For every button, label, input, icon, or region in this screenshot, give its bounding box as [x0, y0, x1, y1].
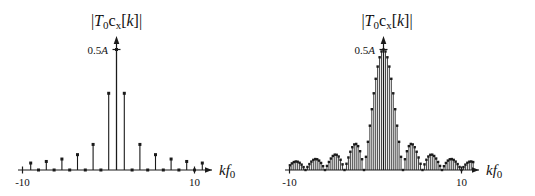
stem-marker [302, 166, 304, 168]
right-xtick-label-plus10: 10 [456, 176, 468, 188]
stem-marker [37, 169, 40, 172]
right-xtick-label-minus10: -10 [282, 176, 297, 188]
stem-marker [396, 124, 398, 126]
stem-marker [341, 163, 343, 165]
stem-marker [386, 56, 388, 58]
stem-marker [443, 165, 445, 167]
stem-marker [472, 161, 474, 163]
stem-marker [406, 150, 408, 152]
stem-marker [435, 157, 437, 159]
stem-marker [415, 151, 417, 153]
stem-marker [373, 92, 375, 94]
right-xaxis-label: kf0 [486, 162, 503, 180]
left-xtick-label-minus10: -10 [15, 176, 30, 188]
stem-marker [324, 169, 326, 171]
ytick-amplitude: A [100, 44, 108, 56]
stem-marker [351, 146, 353, 148]
stem-marker [363, 169, 365, 171]
stem-marker [394, 108, 396, 110]
stem-marker [146, 169, 149, 172]
stem-marker [76, 153, 79, 156]
stem-marker [138, 143, 141, 146]
stem-marker [347, 156, 349, 158]
x-axis-arrowhead [205, 167, 212, 173]
figure-panel-left: |T0cx[k]| 0.5A -10 10 kf0 [0, 0, 267, 196]
stem-marker [154, 153, 157, 156]
stem-marker [304, 169, 306, 171]
stem-marker [330, 157, 332, 159]
stem-marker [437, 161, 439, 163]
stem-marker [99, 169, 102, 172]
stem-marker [29, 162, 32, 165]
left-xtick-label-plus10: 10 [189, 176, 201, 188]
ytick-number: 0.5 [88, 44, 102, 56]
stem-marker [115, 48, 118, 51]
title-bar-right: | [409, 12, 412, 30]
stem-marker [376, 65, 378, 67]
stem-marker [162, 169, 165, 172]
title-c: c [379, 12, 386, 29]
title-bar-right: | [139, 12, 142, 30]
stem-marker [388, 65, 390, 67]
stem-marker [400, 156, 402, 158]
left-xaxis-label: kf0 [219, 162, 236, 180]
stem-marker [84, 169, 87, 172]
stem-marker [345, 163, 347, 165]
stem-marker [390, 78, 392, 80]
stem-marker [445, 162, 447, 164]
right-spectrum-plot: |T0cx[k]| 0.5A -10 10 kf0 [267, 0, 535, 196]
left-plot-title: |T0cx[k]| [91, 12, 142, 31]
stem-marker [423, 163, 425, 165]
stem-marker [343, 169, 345, 171]
stem-marker [185, 160, 188, 163]
stem-marker [306, 166, 308, 168]
left-spectrum-plot: |T0cx[k]| 0.5A -10 10 kf0 [0, 0, 267, 196]
stem-marker [359, 150, 361, 152]
stem-marker [460, 169, 462, 171]
stem-marker [193, 169, 196, 172]
stem-marker [454, 160, 456, 162]
stem-marker [371, 108, 373, 110]
stem-marker [384, 50, 386, 52]
title-c: c [109, 12, 116, 29]
stem-marker [177, 169, 180, 172]
stem-marker [441, 169, 443, 171]
stem-marker [107, 92, 110, 95]
stem-marker [419, 163, 421, 165]
stem-marker [45, 160, 48, 163]
stem-marker [421, 169, 423, 171]
stem-marker [412, 143, 414, 145]
stem-marker [201, 162, 204, 165]
stem-marker [68, 169, 71, 172]
xaxis-f-subscript: 0 [230, 168, 236, 180]
stem-marker [53, 169, 56, 172]
stem-marker [337, 155, 339, 157]
figure-panel-right: |T0cx[k]| 0.5A -10 10 kf0 [267, 0, 534, 196]
stem-marker [414, 146, 416, 148]
stem-marker [170, 158, 173, 161]
stem-marker [433, 155, 435, 157]
right-stem-group [289, 48, 475, 171]
y-axis-arrowhead [381, 36, 387, 44]
stem-marker [378, 56, 380, 58]
stem-marker [320, 162, 322, 164]
stem-marker [92, 143, 95, 146]
stem-marker [60, 158, 63, 161]
stem-marker [357, 145, 359, 147]
y-axis-arrowhead [114, 36, 120, 44]
stem-marker [404, 158, 406, 160]
stem-marker [328, 161, 330, 163]
left-ytick-label: 0.5A [88, 44, 109, 56]
stem-marker [375, 78, 377, 80]
stem-marker [365, 156, 367, 158]
stem-marker [456, 163, 458, 165]
stem-marker [402, 169, 404, 171]
right-plot-title: |T0cx[k]| [361, 12, 412, 31]
ytick-amplitude: A [367, 44, 375, 56]
stem-marker [392, 92, 394, 94]
stem-marker [369, 124, 371, 126]
stem-marker [326, 165, 328, 167]
stem-marker [322, 165, 324, 167]
ytick-number: 0.5 [355, 44, 369, 56]
xaxis-f-subscript: 0 [497, 168, 503, 180]
